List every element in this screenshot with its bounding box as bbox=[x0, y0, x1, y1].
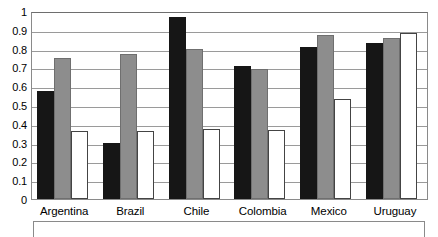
x-axis-label: Uruguay bbox=[362, 202, 428, 220]
bar-groups bbox=[32, 13, 427, 199]
bar[interactable] bbox=[137, 131, 154, 199]
y-tick-label: 1 bbox=[0, 7, 27, 18]
bar[interactable] bbox=[234, 66, 251, 199]
bar-group bbox=[32, 13, 98, 199]
bar-group bbox=[229, 13, 295, 199]
x-axis-label: Chile bbox=[163, 202, 229, 220]
bar[interactable] bbox=[169, 17, 186, 199]
x-axis-label: Mexico bbox=[296, 202, 362, 220]
y-tick-label: 0.6 bbox=[0, 82, 27, 93]
y-tick-label: 0 bbox=[0, 195, 27, 206]
bar[interactable] bbox=[203, 129, 220, 200]
bar[interactable] bbox=[400, 33, 417, 199]
y-tick-label: 0.2 bbox=[0, 157, 27, 168]
y-tick-label: 0.4 bbox=[0, 119, 27, 130]
x-axis-label: Colombia bbox=[230, 202, 296, 220]
x-axis-label: Argentina bbox=[31, 202, 97, 220]
x-axis-label: Brazil bbox=[97, 202, 163, 220]
bar-group bbox=[361, 13, 427, 199]
bar[interactable] bbox=[54, 58, 71, 199]
bar[interactable] bbox=[37, 91, 54, 199]
bar[interactable] bbox=[366, 43, 383, 199]
y-tick-label: 0.1 bbox=[0, 176, 27, 187]
y-axis: 10.90.80.70.60.50.40.30.20.10 bbox=[0, 12, 27, 200]
plot-area bbox=[31, 12, 428, 200]
y-tick-label: 0.5 bbox=[0, 101, 27, 112]
bar-chart: 10.90.80.70.60.50.40.30.20.10 ArgentinaB… bbox=[0, 0, 438, 237]
y-tick-label: 0.3 bbox=[0, 138, 27, 149]
bar[interactable] bbox=[300, 47, 317, 199]
x-axis-labels: ArgentinaBrazilChileColombiaMexicoUrugua… bbox=[31, 202, 428, 220]
bar[interactable] bbox=[383, 38, 400, 199]
bar-group bbox=[295, 13, 361, 199]
bar[interactable] bbox=[103, 143, 120, 199]
bar[interactable] bbox=[268, 130, 285, 199]
bar[interactable] bbox=[186, 49, 203, 199]
bar-group bbox=[164, 13, 230, 199]
bar[interactable] bbox=[334, 99, 351, 199]
bar[interactable] bbox=[71, 131, 88, 199]
y-tick-label: 0.7 bbox=[0, 63, 27, 74]
y-tick-label: 0.8 bbox=[0, 44, 27, 55]
legend-box bbox=[33, 221, 425, 237]
y-tick-label: 0.9 bbox=[0, 25, 27, 36]
bar-group bbox=[98, 13, 164, 199]
bar[interactable] bbox=[251, 69, 268, 199]
bar[interactable] bbox=[317, 35, 334, 199]
bar[interactable] bbox=[120, 54, 137, 199]
